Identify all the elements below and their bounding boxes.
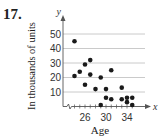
x-axis-symbol: x: [152, 101, 158, 112]
data-point: [130, 103, 135, 108]
data-point: [93, 87, 98, 92]
x-tick-label: 34: [121, 112, 133, 123]
y-tick-label: 50: [50, 29, 62, 40]
data-point: [119, 85, 124, 90]
data-point: [77, 69, 82, 74]
y-tick-label: 40: [50, 43, 62, 54]
data-point: [83, 82, 88, 87]
data-point: [109, 68, 114, 73]
data-point: [119, 97, 124, 102]
y-axis-arrow-icon: [61, 15, 66, 21]
data-point: [109, 97, 114, 102]
scatter-plot: 1020304050yx263034: [0, 0, 161, 139]
y-tick-label: 20: [50, 72, 62, 83]
data-point: [83, 62, 88, 67]
y-tick-label: 10: [50, 87, 62, 98]
data-point: [72, 39, 77, 44]
y-axis-symbol: y: [56, 6, 62, 17]
data-point: [88, 58, 93, 63]
data-point: [130, 96, 135, 101]
x-tick-label: 26: [79, 112, 91, 123]
data-point: [72, 74, 77, 79]
data-point: [98, 75, 103, 80]
data-point: [104, 96, 109, 101]
data-point: [98, 103, 103, 108]
data-point: [125, 96, 130, 101]
y-tick-label: 30: [50, 58, 62, 69]
axis-break-icon: [67, 104, 72, 109]
x-axis-arrow-icon: [145, 104, 151, 109]
data-point: [104, 87, 109, 92]
data-point: [88, 72, 93, 77]
data-point: [125, 100, 130, 105]
x-tick-label: 30: [100, 112, 112, 123]
